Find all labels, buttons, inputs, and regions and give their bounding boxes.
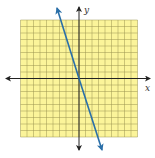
x-axis-label: x <box>145 83 150 93</box>
coordinate-graph: x y <box>0 0 155 158</box>
y-axis-label: y <box>83 5 90 15</box>
